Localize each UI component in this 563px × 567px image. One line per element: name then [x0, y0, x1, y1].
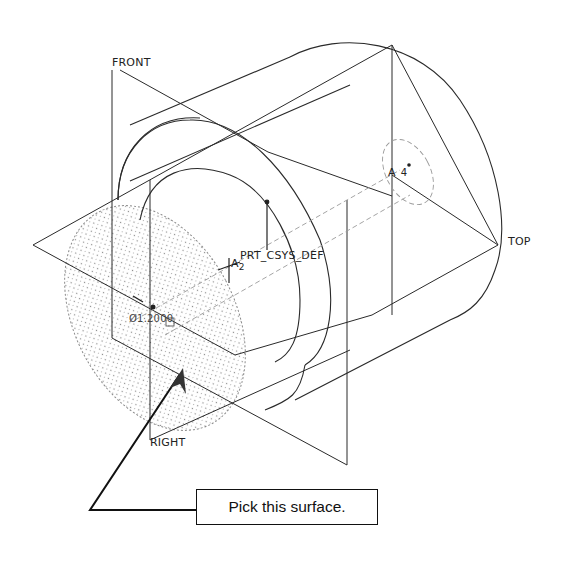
dimension-label: Ø1.2000: [129, 313, 173, 324]
axis-a2-number: 2: [239, 262, 245, 272]
cad-part-drawing: [0, 0, 563, 567]
callout-box: Pick this surface.: [196, 489, 378, 525]
axis-a4-number: 4: [401, 167, 408, 178]
axis-a2-prefix: A: [231, 257, 239, 270]
csys-label: PRT_CSYS_DEF: [240, 249, 324, 262]
axis-a4-label: A4: [388, 166, 407, 179]
axis-a4-marker: [407, 163, 411, 167]
top-datum-label: TOP: [508, 235, 531, 248]
axis-a4-prefix: A: [388, 166, 396, 179]
front-datum-label: FRONT: [112, 56, 151, 69]
callout-text: Pick this surface.: [228, 498, 345, 516]
right-datum-label: RIGHT: [150, 436, 185, 449]
axis-a2-label: A2: [231, 257, 245, 272]
